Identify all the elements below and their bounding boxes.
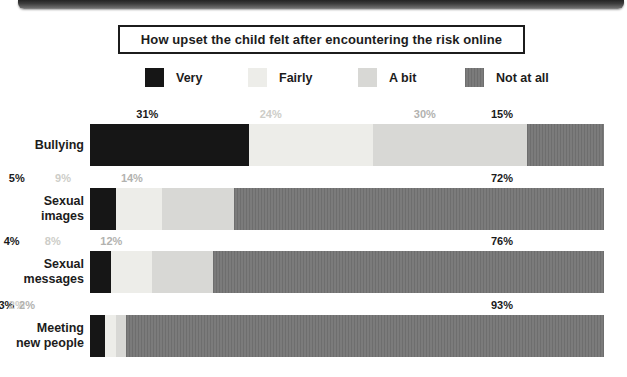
- stacked-bar-row: [90, 188, 604, 230]
- bar-value-label: 72%: [491, 172, 514, 184]
- bar-value-label: 14%: [121, 172, 144, 184]
- bar-value-label: 15%: [491, 108, 514, 120]
- bar-segment: [234, 188, 604, 230]
- bar-value-label: 31%: [136, 108, 159, 120]
- bar-value-label: 8%: [45, 235, 62, 247]
- stacked-bar-row: [90, 251, 604, 293]
- bar-segment: [373, 124, 527, 166]
- bar-segment: [116, 315, 126, 357]
- category-label: Sexual messages: [0, 251, 84, 293]
- bar-segment: [111, 251, 152, 293]
- bar-value-label: 24%: [260, 108, 283, 120]
- bar-segment: [116, 188, 162, 230]
- bar-segment: [527, 124, 604, 166]
- bar-value-label: 12%: [100, 235, 123, 247]
- bar-segment: [90, 251, 111, 293]
- stacked-bar-row: [90, 315, 604, 357]
- bar-value-label: 9%: [55, 172, 72, 184]
- category-label: Bullying: [0, 124, 84, 166]
- bar-value-label: 30%: [414, 108, 437, 120]
- bar-segment: [126, 315, 604, 357]
- bar-value-label: 93%: [491, 299, 514, 311]
- category-label: Sexual images: [0, 188, 84, 230]
- bar-segment: [249, 124, 372, 166]
- bar-value-label: 4%: [4, 235, 21, 247]
- bar-segment: [90, 315, 105, 357]
- bar-value-label: 76%: [491, 235, 514, 247]
- bar-value-label: 2%: [19, 299, 36, 311]
- bar-segment: [90, 188, 116, 230]
- bar-segment: [213, 251, 604, 293]
- bar-segment: [90, 124, 249, 166]
- bar-value-label: 5%: [9, 172, 26, 184]
- bar-segment: [105, 315, 115, 357]
- bar-segment: [162, 188, 234, 230]
- stacked-bar-chart: Bullying31%24%30%15%Sexual images5%9%14%…: [0, 0, 627, 377]
- category-label: Meeting new people: [0, 315, 84, 357]
- bar-segment: [152, 251, 214, 293]
- stacked-bar-row: [90, 124, 604, 166]
